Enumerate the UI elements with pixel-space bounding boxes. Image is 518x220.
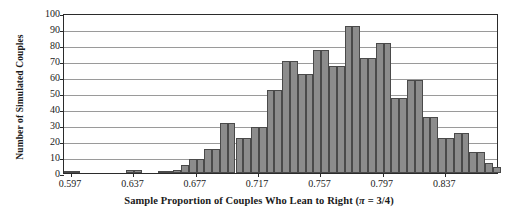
x-axis-tick-mark [196, 173, 197, 177]
x-axis-tick-mark [320, 173, 321, 177]
y-axis-tick-label: 20 [22, 137, 60, 147]
y-axis-tick-label: 10 [22, 153, 60, 163]
x-axis-tick-label: 0.797 [352, 178, 412, 189]
x-axis-tick-label: 0.837 [414, 178, 474, 189]
y-axis-tick-label: 50 [22, 89, 60, 99]
x-axis-tick-mark [445, 173, 446, 177]
y-axis-tick-label: 80 [22, 41, 60, 51]
plot-area [63, 14, 498, 174]
y-axis-tick-label: 70 [22, 57, 60, 67]
x-axis-tick-mark [133, 173, 134, 177]
histogram-figure: Number of Simulated Couples 010203040506… [0, 0, 518, 220]
y-axis-tick-label: 40 [22, 105, 60, 115]
x-axis-tick-label: 0.677 [165, 178, 225, 189]
x-axis-tick-label: 0.717 [227, 178, 287, 189]
x-axis-title-text: Sample Proportion of Couples Who Lean to… [124, 195, 394, 206]
y-axis-tick-label: 30 [22, 121, 60, 131]
pi-symbol: π [359, 195, 365, 206]
y-axis-tick-label: 90 [22, 25, 60, 35]
x-axis-tick-mark [258, 173, 259, 177]
y-axis-tick-mark [60, 175, 64, 176]
x-axis-tick-label: 0.597 [40, 178, 100, 189]
x-axis-tick-label: 0.757 [289, 178, 349, 189]
x-axis-tick-mark [71, 173, 72, 177]
x-axis-ticks [64, 15, 497, 173]
x-axis-tick-mark [383, 173, 384, 177]
y-axis-tick-label: 60 [22, 73, 60, 83]
y-axis-tick-label: 100 [22, 9, 60, 19]
x-axis-tick-label: 0.637 [102, 178, 162, 189]
x-axis-title: Sample Proportion of Couples Who Lean to… [0, 195, 518, 206]
